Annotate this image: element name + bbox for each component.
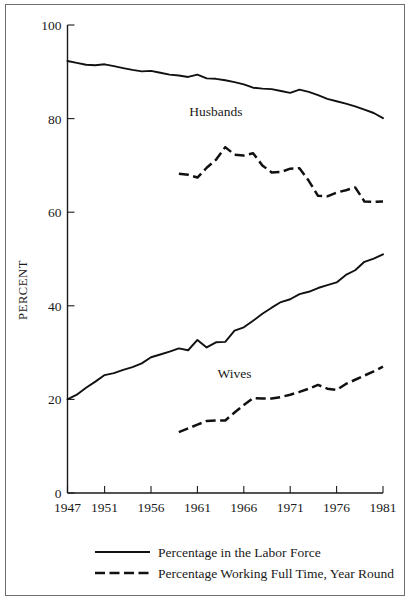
y-tick-label: 100 [41,18,62,33]
x-tick-label: 1976 [323,500,350,515]
series-annotation-label: Wives [218,366,252,381]
series-line [179,367,383,433]
x-tick-label: 1961 [184,500,211,515]
y-axis-ticks: 020406080100 [41,18,74,501]
legend-label: Percentage in the Labor Force [158,545,321,560]
series-annotation-label: Husbands [189,104,242,119]
y-tick-label: 80 [48,112,62,127]
figure-container: 020406080100 194719511956196119661971197… [0,0,412,602]
y-axis-title-label: PERCENT [16,260,30,320]
y-tick-label: 20 [48,392,62,407]
x-tick-label: 1947 [54,500,81,515]
x-tick-label: 1951 [91,500,118,515]
x-tick-label: 1956 [138,500,165,515]
y-tick-label: 0 [55,486,62,501]
y-tick-label: 40 [48,299,62,314]
y-axis-title: PERCENT [16,260,30,320]
x-tick-label: 1971 [277,500,304,515]
axes [68,25,384,493]
line-chart: 020406080100 194719511956196119661971197… [0,0,412,602]
x-axis-ticks: 19471951195619611966197119761981 [54,486,397,515]
x-tick-label: 1966 [230,500,257,515]
y-tick-label: 60 [48,205,62,220]
series-line [179,147,383,202]
x-tick-label: 1981 [370,500,397,515]
legend-label: Percentage Working Full Time, Year Round [158,566,394,581]
chart-legend: Percentage in the Labor ForcePercentage … [95,545,394,581]
